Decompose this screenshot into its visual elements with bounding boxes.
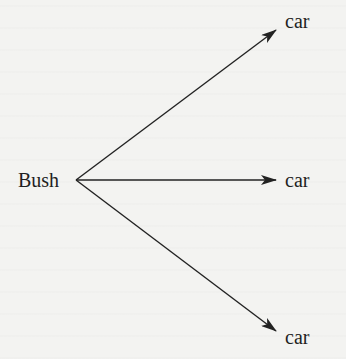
arrow-to-car-bottom: [76, 180, 276, 331]
arrow-to-car-top: [76, 30, 276, 180]
diagram-canvas: Bush car car car: [0, 0, 346, 359]
target-label-car-bottom: car: [285, 327, 309, 347]
target-label-car-top: car: [285, 11, 309, 31]
source-label-bush: Bush: [18, 170, 59, 190]
target-label-car-middle: car: [285, 170, 309, 190]
